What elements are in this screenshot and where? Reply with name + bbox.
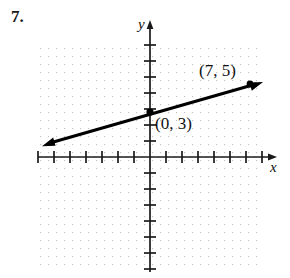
point-label-0-3: (0, 3) <box>155 115 192 132</box>
y-axis-label: y <box>138 17 145 32</box>
point-marker-b <box>247 81 254 88</box>
coordinate-plane <box>0 0 290 278</box>
x-axis-label: x <box>270 160 277 175</box>
graph-figure: 7. <box>0 0 290 278</box>
point-marker-a <box>146 108 153 115</box>
point-label-7-5: (7, 5) <box>199 62 236 79</box>
